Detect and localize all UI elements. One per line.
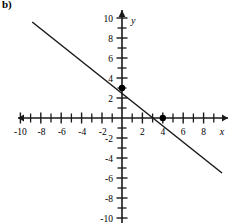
x-tick-label: 8: [201, 127, 206, 137]
y-tick-label: 10: [104, 14, 114, 24]
x-tick-label: 4: [160, 127, 165, 137]
graph-figure: b): [0, 0, 228, 223]
x-axis-label: x: [219, 126, 225, 137]
y-tick-label: 2: [108, 94, 113, 104]
y-tick-label: 6: [108, 54, 113, 64]
y-tick-label: 8: [108, 34, 113, 44]
x-tick-label: 6: [181, 127, 186, 137]
point-x-intercept: [160, 115, 166, 121]
y-tick-label: -4: [105, 154, 113, 164]
x-tick-label: -10: [14, 127, 27, 137]
y-axis: [119, 10, 126, 223]
x-tick-label: -8: [38, 127, 46, 137]
x-tick-label: -4: [78, 127, 86, 137]
y-tick-label: -8: [105, 194, 113, 204]
y-tick-label: 4: [108, 74, 113, 84]
y-axis-label: y: [130, 15, 136, 26]
coordinate-plane-chart: -10 -8 -6 -4 -2 2 4 6 8 10 8 6 4 2 -2 -4…: [0, 0, 228, 223]
y-tick-label: -2: [105, 134, 113, 144]
x-axis: [18, 115, 228, 122]
y-axis-up-arrow-icon: [119, 10, 126, 17]
x-tick-label: 2: [140, 127, 145, 137]
y-tick-label: -10: [100, 214, 113, 224]
x-axis-right-arrow-icon: [222, 115, 228, 122]
y-tick-label: -6: [105, 174, 113, 184]
x-tick-label: -6: [58, 127, 66, 137]
plotted-line: [32, 22, 222, 173]
point-y-intercept: [119, 85, 125, 91]
